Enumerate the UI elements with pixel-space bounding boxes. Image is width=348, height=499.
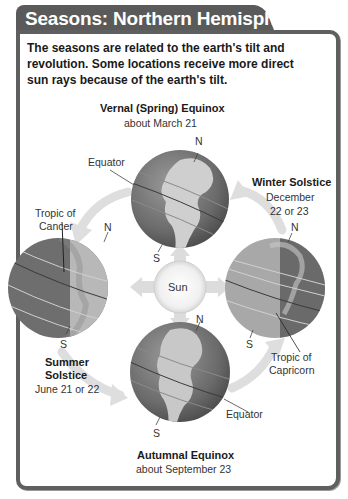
- autumnal-south: S: [153, 427, 160, 440]
- winter-date-line1: December: [266, 191, 314, 204]
- vernal-south: S: [153, 252, 160, 265]
- autumnal-title: Autumnal Equinox: [137, 449, 234, 462]
- autumnal-north: N: [196, 313, 204, 326]
- winter-capricorn-line2: Capricorn: [269, 364, 315, 377]
- winter-south: S: [246, 338, 253, 351]
- winter-capricorn-line1: Tropic of: [271, 351, 311, 364]
- winter-north: N: [291, 221, 299, 234]
- seasons-diagram: [0, 0, 348, 499]
- autumnal-equator-callout: Equator: [226, 408, 263, 421]
- summer-south: S: [60, 338, 67, 351]
- winter-title: Winter Solstice: [252, 176, 331, 189]
- vernal-equator-callout: Equator: [88, 156, 125, 169]
- summer-date: June 21 or 22: [35, 383, 99, 396]
- globe-winter: [225, 230, 340, 352]
- globe-vernal: [110, 150, 230, 256]
- globe-summer: [8, 222, 130, 350]
- vernal-title: Vernal (Spring) Equinox: [100, 102, 225, 115]
- summer-title-line2: Solstice: [45, 369, 87, 382]
- vernal-north: N: [195, 135, 203, 148]
- vernal-date: about March 21: [124, 117, 197, 130]
- winter-date-line2: 22 or 23: [270, 205, 309, 218]
- summer-title-line1: Summer: [45, 356, 89, 369]
- autumnal-date: about September 23: [136, 463, 231, 476]
- summer-north: N: [104, 221, 112, 234]
- summer-cancer-line1: Tropic of: [35, 207, 75, 220]
- summer-cancer-line2: Cancer: [39, 220, 73, 233]
- sun-label: Sun: [168, 281, 188, 294]
